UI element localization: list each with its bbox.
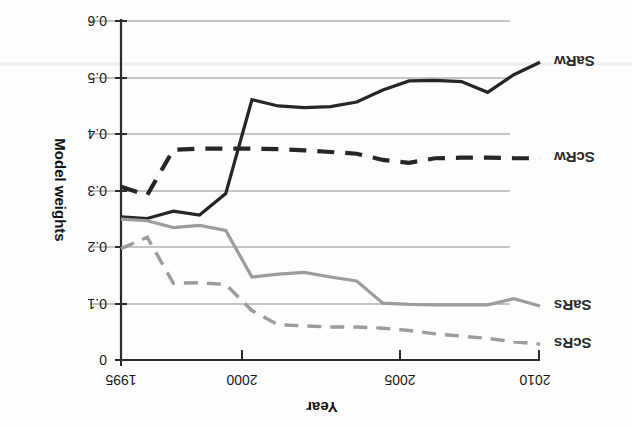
chart-figure: 0 0.1 0.2 0.3 0.4 0.5 0.6 Model weights … <box>0 0 632 428</box>
year-axis-title: Year <box>306 399 338 416</box>
value-axis: 0 0.1 0.2 0.3 0.4 0.5 0.6 Model weights <box>52 13 127 368</box>
ytick-label-0.1: 0.1 <box>87 296 107 312</box>
xtick-label-2000: 2000 <box>226 372 257 388</box>
xtick-label-1995: 1995 <box>105 372 136 388</box>
series-label-sars: SaRs <box>554 297 592 314</box>
series-label-scrs: ScRs <box>554 335 592 352</box>
value-axis-title: Model weights <box>52 138 69 241</box>
ytick-label-0.3: 0.3 <box>87 183 107 199</box>
rotated-chart-container: 0 0.1 0.2 0.3 0.4 0.5 0.6 Model weights … <box>0 0 632 428</box>
series-labels: ScRs SaRs ScRw SaRw <box>554 53 595 352</box>
series-label-scrw: ScRw <box>554 149 595 166</box>
ytick-label-0.2: 0.2 <box>87 239 107 255</box>
xtick-label-2005: 2005 <box>384 372 415 388</box>
ytick-label-0.4: 0.4 <box>87 126 107 142</box>
xtick-label-2010: 2010 <box>519 372 550 388</box>
ytick-label-0.6: 0.6 <box>87 13 107 29</box>
line-chart: 0 0.1 0.2 0.3 0.4 0.5 0.6 Model weights … <box>0 0 632 428</box>
series-line-sarw <box>121 62 540 218</box>
series-line-scrw <box>121 149 540 196</box>
series-line-scrs <box>121 237 540 344</box>
ytick-label-0.5: 0.5 <box>87 70 107 86</box>
series-line-sars <box>121 219 540 306</box>
series-label-sarw: SaRw <box>554 53 595 70</box>
series-group <box>121 62 540 344</box>
year-axis: 1995 2000 2005 2010 Year <box>105 350 550 416</box>
ytick-label-0: 0 <box>99 352 107 368</box>
